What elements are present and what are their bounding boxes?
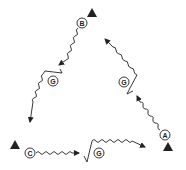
svg-text:B: B	[79, 20, 84, 27]
player-a: A	[160, 130, 170, 140]
cone-top-icon	[87, 8, 97, 17]
svg-text:G: G	[96, 150, 102, 157]
dribble-path-g3	[84, 140, 145, 163]
svg-text:G: G	[121, 79, 127, 86]
dribble-path-g1	[30, 69, 62, 122]
svg-text:A: A	[162, 132, 167, 139]
svg-text:G: G	[50, 78, 56, 85]
player-b: B	[77, 18, 87, 28]
dribble-path-b	[59, 28, 78, 65]
player-g-left: G	[48, 76, 58, 86]
drill-diagram: A B C G G G	[0, 0, 186, 170]
player-g-right: G	[119, 77, 129, 87]
svg-text:C: C	[27, 150, 32, 157]
cone-left-icon	[10, 140, 20, 149]
dribble-path-a	[137, 96, 160, 130]
dribble-path-c	[36, 152, 79, 155]
player-g-bottom: G	[94, 148, 104, 158]
player-c: C	[25, 148, 35, 158]
cone-right-icon	[163, 142, 173, 151]
